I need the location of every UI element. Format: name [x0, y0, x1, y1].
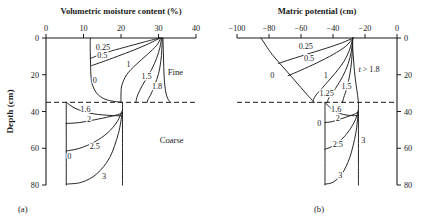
contour-label-coarse-3-right: 3 — [361, 136, 365, 145]
contour-label-0.5: 0.5 — [304, 54, 314, 63]
contour-label-1.8: 1.8 — [152, 82, 162, 91]
b-y-tick-label: 0 — [404, 34, 408, 43]
contour-label-1.5: 1.5 — [341, 82, 351, 91]
contour-label-1.5: 1.5 — [141, 72, 151, 81]
panel-b-axis-title: Matric potential (cm) — [278, 6, 357, 16]
contour-label-coarse-1.6: 1.6 — [331, 105, 341, 114]
contour-label-0: 0 — [270, 71, 274, 80]
b-x-tick-label: −80 — [263, 24, 276, 33]
contour-label-0.5: 0.5 — [97, 51, 107, 60]
panel-b-svg: Matric potential (cm) −100−80−60−40−200 … — [221, 0, 442, 223]
b-x-tick-label: −100 — [229, 24, 246, 33]
contour-coarse-2 — [325, 112, 358, 123]
panel-b-caption: (b) — [314, 204, 324, 214]
zone-label-fine: Fine — [168, 67, 183, 77]
panel-a: Volumetric moisture content (%) 01020304… — [0, 0, 221, 223]
a-x-tick-label: 20 — [117, 24, 125, 33]
a-x-tick-label: 30 — [154, 24, 162, 33]
contour-coarse-1.6 — [66, 102, 122, 115]
contour-label-coarse-3-bottom: 3 — [338, 171, 342, 180]
b-y-tick-label: 40 — [404, 108, 412, 117]
contour-label-coarse-0: 0 — [317, 119, 321, 128]
panel-a-axis-title: Volumetric moisture content (%) — [60, 6, 181, 16]
contour-label-1: 1 — [126, 60, 130, 69]
b-y-tick-label: 60 — [404, 144, 412, 153]
a-y-tick-label: 0 — [35, 34, 39, 43]
contour-label-coarse-2.5: 2.5 — [333, 140, 343, 149]
b-x-tick-label: −20 — [359, 24, 372, 33]
contour-label-coarse-0: 0 — [67, 152, 71, 161]
contour-label-coarse-3: 3 — [102, 172, 106, 181]
contour-label-coarse-2.5: 2.5 — [90, 142, 100, 151]
contour-coarse-1.6 — [325, 102, 358, 115]
b-x-tick-label: −40 — [327, 24, 340, 33]
contour-0.25 — [279, 38, 353, 63]
b-x-tick-label: −60 — [295, 24, 308, 33]
contour-label-coarse-2: 2 — [87, 115, 91, 124]
panel-b: Matric potential (cm) −100−80−60−40−200 … — [221, 0, 442, 223]
contour-label-1.25: 1.25 — [319, 89, 333, 98]
contour-label-coarse-2: 2 — [336, 114, 340, 123]
annotation-time-threshold: t > 1.8 — [358, 65, 379, 74]
a-y-tick-label: 60 — [31, 144, 39, 153]
a-x-tick-label: 40 — [192, 24, 200, 33]
a-x-tick-label: 0 — [44, 24, 48, 33]
a-x-tick-label: 10 — [79, 24, 87, 33]
panel-a-y-axis-label: Depth (cm) — [5, 89, 15, 133]
contour-label-coarse-1.6: 1.6 — [80, 105, 90, 114]
contour-label-0.25: 0.25 — [299, 42, 313, 51]
zone-label-coarse: Coarse — [160, 135, 184, 145]
a-y-tick-label: 80 — [31, 181, 39, 190]
b-y-tick-label: 20 — [404, 71, 412, 80]
panel-a-caption: (a) — [18, 204, 28, 214]
a-y-tick-label: 40 — [31, 108, 39, 117]
contour-label-1: 1 — [324, 71, 328, 80]
figure-container: Volumetric moisture content (%) 01020304… — [0, 0, 442, 223]
panel-a-svg: Volumetric moisture content (%) 01020304… — [0, 0, 221, 223]
b-x-tick-label: 0 — [395, 24, 399, 33]
b-y-tick-label: 80 — [404, 181, 412, 190]
contour-label-0: 0 — [93, 76, 97, 85]
a-y-tick-label: 20 — [31, 71, 39, 80]
